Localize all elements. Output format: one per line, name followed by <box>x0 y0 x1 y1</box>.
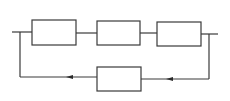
forward-block-3 <box>157 22 201 46</box>
forward-block-1 <box>32 20 76 45</box>
block-diagram <box>0 0 230 101</box>
feedback-block <box>97 67 141 91</box>
arrow-left-icon <box>166 77 173 81</box>
forward-block-2 <box>97 21 140 45</box>
arrow-left-icon <box>66 75 73 79</box>
